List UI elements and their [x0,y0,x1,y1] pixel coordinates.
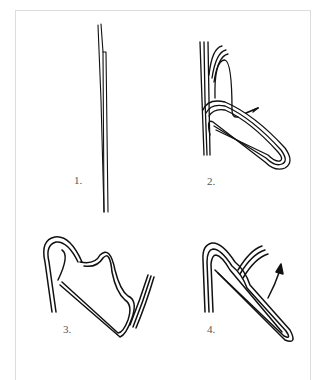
panel-3-spiral [44,237,154,337]
step-label-3: 3. [63,323,71,335]
panel-4-tightened [203,243,293,341]
panel-2-loop [200,42,290,169]
panel-1-cord [98,24,108,212]
step-label-4: 4. [207,323,215,335]
step-label-2: 2. [207,175,215,187]
step-label-1: 1. [74,174,82,186]
